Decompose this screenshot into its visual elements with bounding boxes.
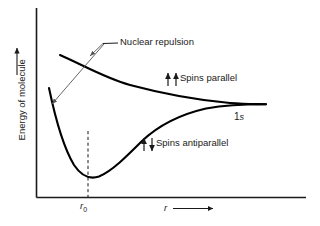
x-axis-title: r xyxy=(164,203,167,213)
leader-line-lower-curve xyxy=(52,44,104,104)
curve-spins-antiparallel xyxy=(49,88,266,178)
x-axis-tick-label-subscript: 0 xyxy=(83,206,87,213)
nuclear-repulsion-label: Nuclear repulsion xyxy=(120,37,194,47)
figure-container: Energy of molecule Nuclear repulsion Spi… xyxy=(0,0,320,226)
asymptote-label-1s: 1s xyxy=(234,112,244,122)
leader-stub-nuclear-repulsion xyxy=(103,43,118,44)
leader-line-upper-curve xyxy=(90,44,103,57)
x-axis-tick-label-r0: r0 xyxy=(80,201,87,213)
spins-parallel-label: Spins parallel xyxy=(180,73,237,83)
potential-energy-curve-diagram xyxy=(0,0,320,226)
spins-antiparallel-label: Spins antiparallel xyxy=(156,138,228,148)
asymptote-label-orbital: s xyxy=(240,112,245,122)
y-axis-title: Energy of molecule xyxy=(17,40,27,160)
